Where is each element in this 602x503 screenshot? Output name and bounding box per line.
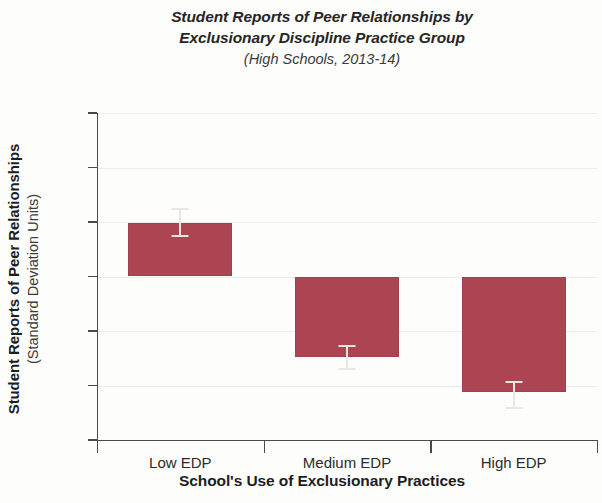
chart-subtitle: (High Schools, 2013-14) (42, 48, 602, 70)
x-axis-label: School's Use of Exclusionary Practices (42, 472, 602, 490)
error-bar-cap-upper (172, 208, 189, 210)
x-axis-separator (597, 440, 598, 453)
x-axis-separator (264, 440, 265, 453)
error-bar-cap-lower (172, 235, 189, 237)
y-axis-tick (88, 167, 97, 168)
error-bar-stem (346, 346, 348, 369)
error-bar-cap-upper (505, 381, 522, 383)
y-axis-label-main: Student Reports of Peer Relationships (4, 96, 23, 462)
error-bar-cap-lower (339, 368, 356, 370)
y-axis-tick (88, 330, 97, 331)
x-axis-separator (97, 440, 98, 453)
chart-title-line-1: Student Reports of Peer Relationships by (42, 6, 602, 27)
y-axis-label: Student Reports of Peer Relationships (S… (0, 96, 46, 462)
gridline (98, 168, 597, 169)
y-axis-tick (88, 112, 97, 113)
x-axis-line (88, 440, 597, 441)
x-axis-tick-label: Low EDP (149, 454, 212, 471)
gridline (98, 113, 597, 114)
y-axis-tick (88, 385, 97, 386)
x-axis-tick-label: High EDP (481, 454, 547, 471)
y-axis-tick (88, 221, 97, 222)
y-axis-label-units: (Standard Deviation Units) (23, 96, 43, 462)
chart-title: Student Reports of Peer Relationships by… (0, 6, 602, 70)
x-axis-tick-label: Medium EDP (303, 454, 391, 471)
bar (462, 277, 566, 393)
chart-page: Student Reports of Peer Relationships by… (0, 0, 602, 503)
y-axis-tick (88, 439, 97, 440)
y-axis-tick (88, 276, 97, 277)
x-axis-separator (430, 440, 431, 453)
error-bar-cap-upper (339, 345, 356, 347)
plot-area: 1.51.00.50-0.5-1.0-1.5Low EDPMedium EDPH… (97, 113, 597, 440)
error-bar-cap-lower (505, 407, 522, 409)
error-bar-stem (179, 209, 181, 236)
chart-title-line-2: Exclusionary Discipline Practice Group (42, 27, 602, 48)
error-bar-stem (513, 382, 515, 408)
